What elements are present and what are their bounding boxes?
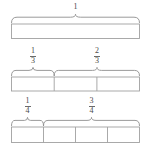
label-layer-thirds: 1 3 2 3 bbox=[0, 47, 149, 66]
bar-layer-thirds bbox=[0, 76, 149, 93]
label-fraction-one-third: 1 3 bbox=[30, 47, 36, 65]
brace-whole bbox=[0, 14, 149, 23]
label-fraction-three-fourths: 3 4 bbox=[89, 97, 95, 115]
brace-layer-thirds bbox=[0, 67, 149, 76]
label-layer-fourths: 1 4 3 4 bbox=[0, 97, 149, 116]
label-layer-whole: 1 bbox=[0, 2, 149, 13]
label-fraction-two-thirds: 2 3 bbox=[94, 47, 100, 65]
label-fraction-one-fourth: 1 4 bbox=[25, 97, 31, 115]
fraction-bar-diagram: 1 1 3 2 3 bbox=[0, 0, 149, 152]
denominator: 3 bbox=[30, 57, 36, 66]
denominator: 3 bbox=[94, 57, 100, 66]
brace-layer-fourths bbox=[0, 117, 149, 126]
bar-thirds bbox=[0, 76, 149, 93]
denominator: 4 bbox=[89, 107, 95, 116]
bar-layer-fourths bbox=[0, 126, 149, 145]
braces-thirds bbox=[0, 67, 149, 76]
denominator: 4 bbox=[25, 107, 31, 116]
braces-fourths bbox=[0, 117, 149, 126]
brace-layer-whole bbox=[0, 14, 149, 23]
bar-fourths bbox=[0, 126, 149, 145]
label-whole-1: 1 bbox=[74, 3, 78, 11]
bar-layer-whole bbox=[0, 23, 149, 40]
bar-whole bbox=[0, 23, 149, 40]
